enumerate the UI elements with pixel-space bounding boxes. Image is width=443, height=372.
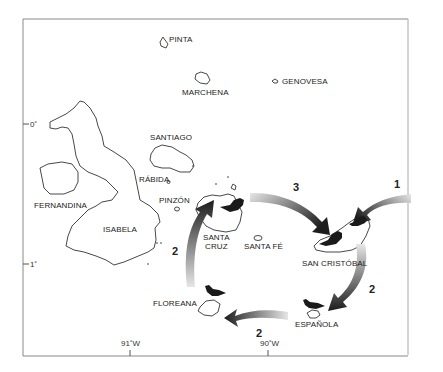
label-santa-cruz-line2: CRUZ [205,242,228,251]
galapagos-map [0,0,443,372]
arrow-label-2-fl-sc: 2 [172,245,178,257]
label-san-cristobal: SAN CRISTÓBAL [302,259,367,268]
island-santiago [150,145,194,172]
lon-tick-91w: 91˚W [121,339,140,348]
island-santa-fe [254,236,262,241]
label-marchena: MARCHENA [182,88,229,97]
island-fernandina [40,162,78,194]
arrow-label-2-sc-es: 2 [369,283,375,295]
label-santiago: SANTIAGO [150,133,192,142]
arrow-2-sc-es [328,244,366,311]
island-marchena [195,72,210,84]
island-espanola [307,310,320,318]
bird-santa-cruz [220,198,244,212]
label-isabela: ISABELA [103,225,137,234]
island-pinzon [175,207,180,211]
lat-tick-1: 1˚ [30,260,37,269]
label-floreana: FLOREANA [153,299,197,308]
island-pinta [160,37,168,48]
lon-tick-90w: 90˚W [260,339,279,348]
bird-floreana [205,285,226,296]
map-frame [23,19,408,356]
arrow-label-3: 3 [293,181,299,193]
label-genovesa: GENOVESA [282,77,328,86]
arrow-label-1: 1 [394,178,400,190]
arrow-3 [250,193,330,235]
label-fernandina: FERNANDINA [34,201,87,210]
label-pinzon: PINZÓN [159,196,190,205]
label-espanola: ESPAÑOLA [295,320,338,329]
island-genovesa [272,79,278,83]
label-santa-cruz-line1: SANTA [203,233,230,242]
arrow-2-es-fl [224,309,288,327]
lat-tick-0: 0˚ [30,120,37,129]
label-pinta: PINTA [169,35,192,44]
finch-birds [205,198,367,309]
island-floreana [198,300,220,316]
arrow-label-2-es-fl: 2 [256,327,262,339]
label-santa-fe: SANTA FÉ [244,242,283,251]
island-baltra [231,184,236,190]
bird-espanola [303,299,325,309]
label-rabida: RÁBIDA [139,175,169,184]
